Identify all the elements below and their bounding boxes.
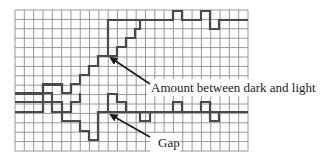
arrow-amount bbox=[111, 58, 150, 84]
bottom-signal-bumps bbox=[135, 102, 248, 121]
label-amount-between-dark-and-light: Amount between dark and light bbox=[151, 80, 316, 95]
label-gap: Gap bbox=[158, 135, 180, 150]
bottom-signal-stairs bbox=[126, 102, 135, 112]
bottom-signal-pulse bbox=[108, 94, 126, 112]
gray-level-diagram: Amount between dark and light Gap bbox=[0, 0, 327, 160]
arrow-gap bbox=[111, 115, 150, 137]
